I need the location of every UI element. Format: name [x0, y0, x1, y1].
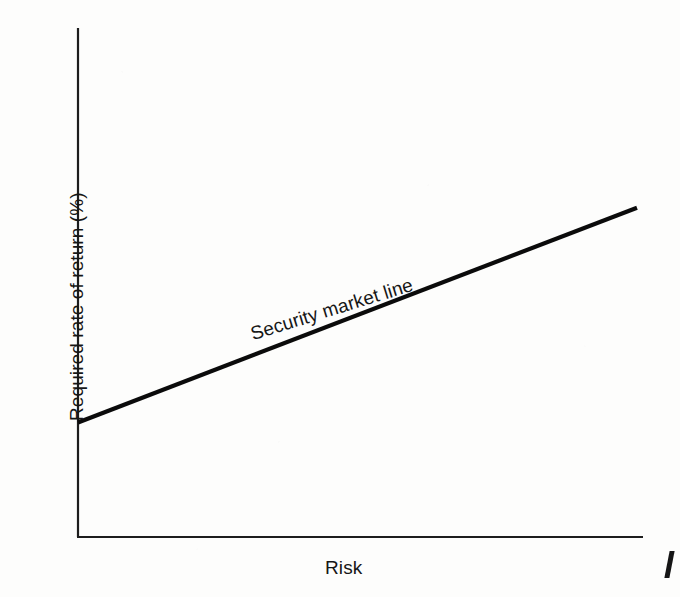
- x-axis-label: Risk: [325, 557, 362, 579]
- y-axis-label: Required rate of return (%): [66, 192, 88, 421]
- chart-figure: Required rate of return (%) Risk Securit…: [0, 0, 680, 597]
- security-market-line: [78, 208, 637, 423]
